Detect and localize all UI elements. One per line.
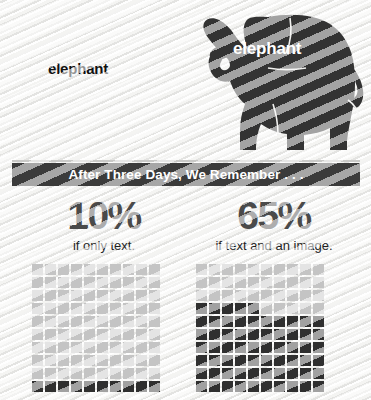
waffle-cell: [235, 355, 246, 366]
waffle-cell: [287, 355, 298, 366]
waffle-cell: [123, 290, 134, 301]
waffle-cell: [261, 264, 272, 275]
waffle-cell: [248, 329, 259, 340]
waffle-cell: [136, 316, 147, 327]
waffle-cell: [84, 368, 95, 379]
waffle-cell: [222, 277, 233, 288]
waffle-cell: [235, 290, 246, 301]
waffle-cell: [149, 277, 160, 288]
waffle-cell: [149, 316, 160, 327]
waffle-cell: [222, 329, 233, 340]
waffle-cell: [196, 316, 207, 327]
stat-caption: if text and an image.: [186, 238, 362, 254]
waffle-cell: [71, 342, 82, 353]
waffle-cell: [248, 290, 259, 301]
waffle-cell: [235, 316, 246, 327]
waffle-cell: [300, 342, 311, 353]
waffle-cell: [313, 355, 324, 366]
waffle-cell: [45, 368, 56, 379]
waffle-cell: [58, 368, 69, 379]
waffle-cell: [136, 264, 147, 275]
waffle-cell: [287, 303, 298, 314]
waffle-cell: [32, 303, 43, 314]
waffle-cell: [222, 303, 233, 314]
waffle-cell: [209, 368, 220, 379]
waffle-cell: [58, 381, 69, 392]
waffle-cell: [110, 316, 121, 327]
waffle-cell: [45, 264, 56, 275]
waffle-cell: [71, 277, 82, 288]
waffle-cell: [261, 316, 272, 327]
waffle-cell: [97, 329, 108, 340]
waffle-cell: [300, 316, 311, 327]
waffle-cell: [196, 368, 207, 379]
waffle-cell: [300, 329, 311, 340]
waffle-cell: [123, 264, 134, 275]
waffle-cell: [261, 290, 272, 301]
banner-title: After Three Days, We Remember . . .: [68, 167, 303, 182]
waffle-cell: [110, 342, 121, 353]
waffle-cell: [248, 368, 259, 379]
waffle-cell: [222, 342, 233, 353]
waffle-cell: [97, 342, 108, 353]
waffle-cell: [45, 290, 56, 301]
waffle-cell: [287, 342, 298, 353]
waffle-cell: [248, 355, 259, 366]
waffle-cell: [58, 342, 69, 353]
waffle-cell: [274, 277, 285, 288]
waffle-cell: [287, 329, 298, 340]
waffle-cell: [45, 342, 56, 353]
waffle-cell: [222, 290, 233, 301]
waffle-cell: [123, 316, 134, 327]
waffle-cell: [149, 381, 160, 392]
waffle-cell: [84, 329, 95, 340]
waffle-cell: [71, 368, 82, 379]
waffle-cell: [196, 355, 207, 366]
elephant-silhouette-icon: [172, 8, 368, 154]
waffle-cell: [110, 303, 121, 314]
waffle-cell: [222, 381, 233, 392]
waffle-cell: [196, 277, 207, 288]
stat-block-text-and-image: 65% if text and an image.: [186, 196, 362, 254]
waffle-cell: [97, 264, 108, 275]
waffle-cell: [287, 368, 298, 379]
waffle-cell: [261, 381, 272, 392]
waffle-cell: [235, 329, 246, 340]
waffle-cell: [209, 342, 220, 353]
waffle-cell: [300, 277, 311, 288]
waffle-cell: [32, 290, 43, 301]
waffle-cell: [248, 277, 259, 288]
waffle-cell: [58, 290, 69, 301]
waffle-cell: [196, 264, 207, 275]
waffle-cell: [149, 290, 160, 301]
waffle-cell: [313, 277, 324, 288]
waffle-cell: [313, 329, 324, 340]
waffle-cell: [45, 316, 56, 327]
waffle-cell: [261, 342, 272, 353]
waffle-cell: [32, 329, 43, 340]
waffle-cell: [222, 264, 233, 275]
waffle-cell: [248, 381, 259, 392]
waffle-cell: [136, 277, 147, 288]
waffle-cell: [196, 329, 207, 340]
waffle-cell: [300, 355, 311, 366]
waffle-cell: [97, 381, 108, 392]
waffle-cell: [235, 277, 246, 288]
waffle-cell: [71, 355, 82, 366]
waffle-cell: [110, 381, 121, 392]
waffle-cell: [84, 277, 95, 288]
waffle-cell: [136, 290, 147, 301]
infographic-canvas: elephant elephant After Three Days, We R…: [0, 0, 371, 400]
waffle-cell: [149, 264, 160, 275]
waffle-cell: [110, 277, 121, 288]
waffle-cell: [71, 381, 82, 392]
waffle-cell: [71, 264, 82, 275]
waffle-cell: [209, 381, 220, 392]
waffle-cell: [32, 342, 43, 353]
waffle-cell: [196, 342, 207, 353]
waffle-cell: [110, 264, 121, 275]
waffle-cell: [313, 290, 324, 301]
waffle-cell: [45, 277, 56, 288]
elephant-word-on-image-label: elephant: [233, 39, 301, 59]
waffle-cell: [300, 381, 311, 392]
